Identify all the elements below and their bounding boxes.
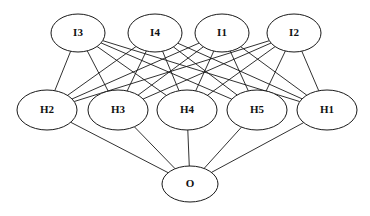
node-label-i1: I1 [217, 26, 227, 38]
network-canvas: I3I4I1I2H2H3H4H5H1O [0, 0, 370, 216]
node-label-i4: I4 [150, 26, 160, 38]
edge-i1-h1 [241, 47, 307, 95]
edge-i4-h2 [67, 47, 136, 96]
node-label-h4: H4 [180, 103, 195, 115]
node-h5[interactable]: H5 [227, 90, 287, 130]
node-label-i2: I2 [289, 26, 299, 38]
node-i2[interactable]: I2 [267, 14, 321, 52]
node-label-h3: H3 [111, 103, 126, 115]
node-layer: I3I4I1I2H2H3H4H5H1O [17, 14, 357, 202]
node-label-h2: H2 [40, 103, 55, 115]
edge-i3-h2 [55, 51, 71, 90]
edge-h4-o [188, 130, 189, 166]
node-i3[interactable]: I3 [51, 14, 105, 52]
node-h3[interactable]: H3 [88, 90, 148, 130]
edge-i2-h5 [266, 51, 285, 91]
node-label-h5: H5 [250, 103, 265, 115]
edge-h3-o [134, 127, 175, 169]
edge-i3-h3 [87, 51, 108, 91]
edge-i3-h4 [97, 46, 166, 95]
node-label-h1: H1 [320, 103, 334, 115]
node-h2[interactable]: H2 [17, 90, 77, 130]
edge-i2-h4 [207, 47, 275, 96]
node-i1[interactable]: I1 [195, 14, 249, 52]
edge-i2-h1 [302, 51, 319, 91]
edge-i1-h3 [138, 47, 203, 95]
edge-h5-o [204, 127, 241, 168]
node-h1[interactable]: H1 [297, 90, 357, 130]
node-label-o: O [186, 177, 195, 189]
node-o[interactable]: O [162, 166, 218, 202]
edge-i1-h4 [196, 51, 214, 91]
neural-network-diagram: I3I4I1I2H2H3H4H5H1O [0, 0, 370, 216]
node-h4[interactable]: H4 [157, 90, 217, 130]
node-i4[interactable]: I4 [128, 14, 182, 52]
node-label-i3: I3 [73, 26, 83, 38]
